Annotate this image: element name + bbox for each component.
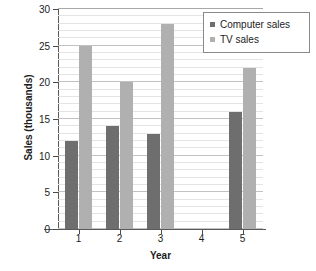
y-tick-mark <box>53 229 58 230</box>
bar-computer-sales-year-5 <box>229 112 242 229</box>
x-axis-title: Year <box>58 250 263 261</box>
y-tick-mark <box>53 119 58 120</box>
legend-swatch-icon-computer-sales <box>210 22 215 27</box>
y-tick-mark <box>53 156 58 157</box>
x-tick-label-4: 4 <box>182 233 222 244</box>
y-tick-mark <box>53 46 58 47</box>
y-tick-label: 20 <box>0 77 50 88</box>
bar-computer-sales-year-1 <box>65 141 78 229</box>
y-tick-mark <box>53 192 58 193</box>
y-tick-label: 25 <box>0 40 50 51</box>
x-tick-label-3: 3 <box>141 233 181 244</box>
legend-label-tv-sales: TV sales <box>220 34 259 45</box>
bar-tv-sales-year-2 <box>120 82 133 229</box>
bar-tv-sales-year-1 <box>79 46 92 229</box>
bar-computer-sales-year-2 <box>106 126 119 229</box>
bar-chart: Sales (thousands) 051015202530 12345 Yea… <box>0 0 316 271</box>
bar-tv-sales-year-3 <box>161 24 174 229</box>
y-tick-label: 30 <box>0 4 50 15</box>
y-tick-label: 5 <box>0 187 50 198</box>
bar-tv-sales-year-5 <box>243 68 256 229</box>
legend-swatch-icon-tv-sales <box>210 37 215 42</box>
legend-item-computer-sales: Computer sales <box>209 17 304 32</box>
y-tick-label: 10 <box>0 150 50 161</box>
legend-item-tv-sales: TV sales <box>209 32 304 47</box>
x-tick-label-1: 1 <box>59 233 99 244</box>
y-tick-label: 0 <box>0 224 50 235</box>
gridline-major <box>58 8 263 9</box>
x-tick-label-2: 2 <box>100 233 140 244</box>
y-tick-mark <box>53 9 58 10</box>
x-axis-line <box>44 229 266 230</box>
x-tick-label-5: 5 <box>223 233 263 244</box>
bar-computer-sales-year-3 <box>147 134 160 229</box>
legend-label-computer-sales: Computer sales <box>220 19 290 30</box>
y-tick-label: 15 <box>0 114 50 125</box>
y-tick-mark <box>53 82 58 83</box>
chart-legend: Computer sales TV sales <box>203 12 310 53</box>
